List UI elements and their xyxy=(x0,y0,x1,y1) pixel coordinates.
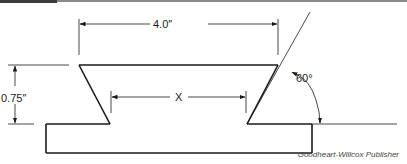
angle-extension-line xyxy=(247,12,310,124)
dimension-height: 0.75″ xyxy=(1,92,26,104)
angle-arc-lower xyxy=(316,100,320,123)
dimension-top-width: 4.0″ xyxy=(150,18,175,30)
dimension-x: X xyxy=(173,91,184,103)
publisher-credit: Goodheart-Willcox Publisher xyxy=(298,150,399,159)
angle-arrow-up xyxy=(292,72,294,73)
part-outline xyxy=(46,65,312,153)
dovetail-drawing xyxy=(0,0,407,164)
dimension-angle: 60° xyxy=(296,72,313,84)
